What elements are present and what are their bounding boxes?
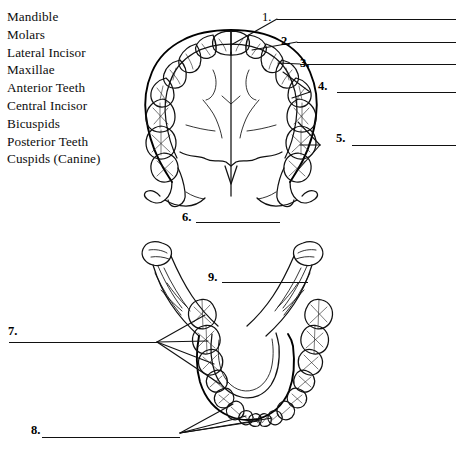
word-bank-term: Bicuspids	[7, 115, 157, 133]
maxilla-tooth-cuspid-left	[179, 44, 201, 73]
maxilla-figure	[144, 30, 317, 207]
answer-number-7: 7.	[8, 325, 17, 338]
leader-line-8	[180, 421, 258, 433]
answer-blank-8[interactable]	[42, 437, 180, 438]
word-bank-term: Lateral Incisor	[7, 44, 157, 62]
answer-number-9: 9.	[208, 271, 217, 284]
mandible-tooth-cuspid-left	[226, 401, 244, 420]
answer-blank-3[interactable]	[300, 64, 456, 65]
leader-line-8	[180, 418, 272, 433]
leader-line-7	[157, 342, 220, 384]
mandible-tooth-cuspid-right	[277, 401, 295, 420]
mandible-tooth-central-incisor-left	[249, 414, 262, 427]
mandible-tooth-lateral-incisor-left	[239, 411, 253, 425]
mandible-tooth-central-incisor-right	[259, 414, 272, 427]
answer-number-4: 4.	[318, 80, 327, 93]
leader-line-3	[278, 63, 300, 64]
leader-line-4	[292, 92, 310, 98]
mandible-tooth-third-molar-right	[305, 299, 333, 329]
answer-number-1: 1.	[262, 11, 271, 24]
answer-blank-4[interactable]	[337, 92, 456, 93]
leader-line-7	[157, 342, 214, 364]
mandible-tooth-second-bicuspid-left	[206, 370, 227, 392]
leader-line-8	[180, 404, 233, 433]
answer-blank-9[interactable]	[222, 282, 308, 283]
leader-line-7	[157, 341, 208, 342]
leader-line-5	[297, 145, 320, 171]
leader-line-7	[157, 315, 205, 342]
maxilla-tooth-central-incisor-left	[213, 31, 231, 55]
mandible-tooth-second-molar-left	[192, 325, 220, 354]
maxilla-tooth-third-molar-right	[284, 153, 311, 182]
mandible-tooth-first-molar-right	[298, 349, 322, 375]
mandible-tooth-lateral-incisor-right	[268, 411, 282, 425]
leader-line-8	[180, 416, 246, 433]
answer-blank-5[interactable]	[352, 145, 456, 146]
mandible-figure	[142, 242, 332, 427]
answer-number-8: 8.	[31, 424, 40, 437]
maxilla-tooth-first-molar-right	[287, 99, 316, 132]
word-bank: Mandible Molars Lateral Incisor Maxillae…	[7, 8, 157, 168]
maxilla-tooth-first-bicuspid-left	[163, 60, 186, 88]
maxilla-tooth-cuspid-right	[261, 44, 283, 73]
answer-number-2: 2.	[281, 35, 290, 48]
word-bank-term: Posterior Teeth	[7, 133, 157, 151]
leader-line-5	[298, 122, 320, 145]
worksheet-page: Mandible Molars Lateral Incisor Maxillae…	[0, 0, 465, 453]
maxilla-tooth-first-bicuspid-right	[276, 60, 299, 88]
answer-blank-1[interactable]	[277, 19, 456, 20]
mandible-tooth-second-molar-right	[301, 325, 329, 354]
maxilla-tooth-second-bicuspid-right	[288, 78, 311, 107]
mandible-tooth-second-bicuspid-right	[294, 370, 315, 392]
answer-blank-2[interactable]	[297, 42, 456, 43]
maxilla-tooth-central-incisor-right	[231, 31, 249, 55]
leader-lines	[157, 19, 320, 433]
mandible-tooth-third-molar-left	[188, 299, 216, 329]
word-bank-term: Mandible	[7, 8, 157, 26]
answer-blank-6[interactable]	[196, 222, 280, 223]
word-bank-term: Molars	[7, 26, 157, 44]
mandible-tooth-first-molar-left	[198, 349, 222, 375]
word-bank-term: Anterior Teeth	[7, 79, 157, 97]
answer-blank-7[interactable]	[9, 342, 157, 343]
answer-number-6: 6.	[182, 211, 191, 224]
maxilla-tooth-second-molar-right	[286, 126, 316, 159]
leader-line-4	[283, 72, 310, 92]
mandible-tooth-first-bicuspid-left	[214, 388, 233, 408]
mandible-tooth-first-bicuspid-right	[287, 388, 306, 408]
word-bank-term: Cuspids (Canine)	[7, 150, 157, 168]
maxilla-tooth-lateral-incisor-left	[196, 35, 216, 58]
word-bank-term: Central Incisor	[7, 97, 157, 115]
word-bank-term: Maxillae	[7, 61, 157, 79]
maxilla-tooth-lateral-incisor-right	[246, 35, 266, 58]
answer-number-5: 5.	[336, 132, 345, 145]
